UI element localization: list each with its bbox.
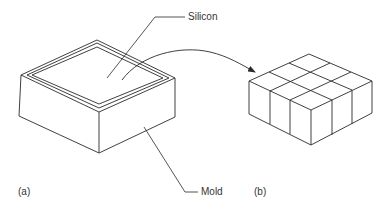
- mold-leader-line: [144, 127, 198, 192]
- diagram-canvas: [0, 0, 390, 209]
- top-grid-line: [269, 72, 332, 100]
- panel-a-label: (a): [18, 186, 30, 198]
- silicon-leader-line: [107, 17, 185, 78]
- silicon-cube-grid: [249, 54, 372, 145]
- cube-top-face: [249, 54, 372, 110]
- cube-bottom-left-edge: [249, 114, 311, 145]
- silicon-label: Silicon: [188, 11, 217, 23]
- silicon-callout: [107, 17, 185, 78]
- mold-inner-rim-1: [27, 43, 169, 108]
- mold-inner-rim-2: [32, 47, 163, 104]
- mold-box: [19, 40, 175, 153]
- mold-left-edge: [19, 75, 21, 116]
- mold-label: Mold: [201, 186, 223, 198]
- cube-bottom-right-edge: [311, 113, 372, 145]
- mold-bottom-left-edge: [19, 116, 99, 153]
- mold-bottom-right-edge: [99, 117, 175, 153]
- panel-b-label: (b): [254, 186, 266, 198]
- mold-outer-rim: [21, 40, 175, 112]
